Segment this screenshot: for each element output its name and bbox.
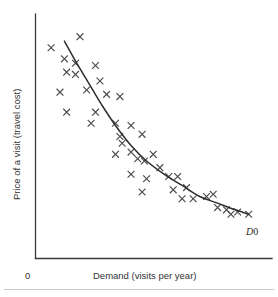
chart-background: [0, 0, 278, 297]
curve-label-d0: D0: [245, 226, 258, 237]
x-axis-label: Demand (visits per year): [93, 270, 196, 281]
figure-container: D0 Price of a visit (travel cost) Demand…: [0, 0, 278, 297]
origin-label: 0: [25, 270, 30, 281]
demand-curve-chart: D0 Price of a visit (travel cost) Demand…: [0, 0, 278, 297]
y-axis-label: Price of a visit (travel cost): [11, 89, 22, 200]
